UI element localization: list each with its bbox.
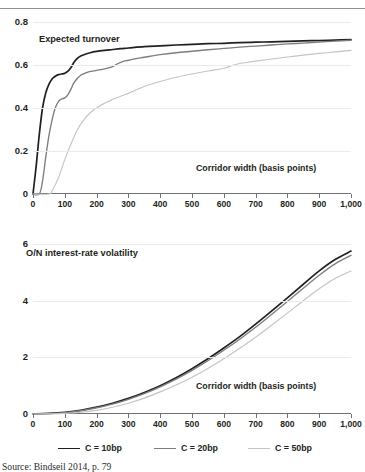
legend-swatch-icon <box>248 448 270 449</box>
plot-area-expected-turnover: 00.20.40.60.8010020030040050060070080090… <box>33 22 351 194</box>
x-axis-tick <box>256 194 257 198</box>
x-axis-tick-label: 600 <box>217 200 231 209</box>
legend-swatch-icon <box>154 448 176 449</box>
y-axis-tick-label: 6 <box>23 239 28 249</box>
x-axis-tick-label: 800 <box>280 420 294 429</box>
series-line <box>33 255 351 414</box>
x-axis-tick-label: 500 <box>185 420 199 429</box>
figure-container: Expected turnover Corridor width (basis … <box>0 0 365 472</box>
gridline <box>33 22 351 23</box>
x-axis-tick-label: 800 <box>280 200 294 209</box>
x-axis-tick-label: 500 <box>185 200 199 209</box>
gridline <box>33 357 351 358</box>
x-axis-tick <box>33 414 34 418</box>
x-axis-tick <box>351 414 352 418</box>
legend-label: C = 20bp <box>181 444 218 453</box>
x-axis-tick <box>351 194 352 198</box>
x-axis-tick-label: 300 <box>121 420 135 429</box>
series-line <box>33 271 351 414</box>
x-axis-tick <box>97 194 98 198</box>
y-axis-tick-label: 0 <box>23 409 28 419</box>
legend-item-c-50bp[interactable]: C = 50bp <box>248 441 312 455</box>
gridline <box>33 244 351 245</box>
x-axis-tick-label: 0 <box>31 420 36 429</box>
x-axis-tick-label: 200 <box>89 200 103 209</box>
x-axis-tick <box>319 194 320 198</box>
x-axis-tick-label: 100 <box>58 200 72 209</box>
x-axis-tick <box>256 414 257 418</box>
x-axis-tick <box>128 194 129 198</box>
x-axis-tick-label: 1,000 <box>340 200 362 209</box>
y-axis-tick-label: 0 <box>23 189 28 199</box>
plot-area-overnight-rate-volatility: 024601002003004005006007008009001,000 <box>33 244 351 414</box>
legend-label: C = 10bp <box>85 444 122 453</box>
x-axis-tick-label: 1,000 <box>340 420 362 429</box>
y-axis-tick-label: 4 <box>23 296 28 306</box>
x-axis-tick <box>192 414 193 418</box>
x-axis-tick-label: 700 <box>248 200 262 209</box>
x-axis-tick-label: 100 <box>58 420 72 429</box>
x-axis-tick-label: 700 <box>248 420 262 429</box>
x-axis-tick <box>160 194 161 198</box>
top-divider-rule <box>0 8 365 9</box>
gridline <box>33 301 351 302</box>
y-axis-tick-label: 0.2 <box>15 146 28 156</box>
x-axis-tick <box>319 414 320 418</box>
legend-label: C = 50bp <box>275 444 312 453</box>
x-axis-tick <box>65 194 66 198</box>
series-line <box>33 40 351 194</box>
y-axis-tick-label: 2 <box>23 353 28 363</box>
x-axis-tick-label: 300 <box>121 200 135 209</box>
x-axis-tick-label: 200 <box>89 420 103 429</box>
x-axis-tick-label: 400 <box>153 200 167 209</box>
chart-legend: C = 10bp C = 20bp C = 50bp <box>0 441 365 457</box>
x-axis-tick-label: 900 <box>312 420 326 429</box>
x-axis-tick-label: 0 <box>31 200 36 209</box>
series-lines-overnight-rate-volatility <box>33 244 351 414</box>
x-axis-tick <box>97 414 98 418</box>
x-axis-tick <box>287 414 288 418</box>
y-axis-tick-label: 0.4 <box>15 103 28 113</box>
x-axis-tick-label: 900 <box>312 200 326 209</box>
x-axis-tick-label: 400 <box>153 420 167 429</box>
series-line <box>33 251 351 414</box>
x-axis-tick <box>287 194 288 198</box>
legend-swatch-icon <box>58 448 80 449</box>
series-line <box>33 40 351 195</box>
x-axis-tick <box>224 194 225 198</box>
source-note: Source: Bindseil 2014, p. 79 <box>2 461 111 472</box>
x-axis-tick <box>224 414 225 418</box>
x-axis-tick <box>33 194 34 198</box>
legend-item-c-20bp[interactable]: C = 20bp <box>154 441 218 455</box>
chart-expected-turnover: Expected turnover Corridor width (basis … <box>0 12 365 212</box>
x-axis-tick <box>160 414 161 418</box>
series-line <box>33 50 351 194</box>
x-axis-tick <box>128 414 129 418</box>
x-axis-tick <box>192 194 193 198</box>
y-axis-tick-label: 0.6 <box>15 60 28 70</box>
chart-overnight-rate-volatility: O/N interest-rate volatility Corridor wi… <box>0 232 365 432</box>
gridline <box>33 65 351 66</box>
legend-item-c-10bp[interactable]: C = 10bp <box>58 441 122 455</box>
x-axis-tick <box>65 414 66 418</box>
gridline <box>33 151 351 152</box>
y-axis-tick-label: 0.8 <box>15 17 28 27</box>
gridline <box>33 108 351 109</box>
x-axis-tick-label: 600 <box>217 420 231 429</box>
